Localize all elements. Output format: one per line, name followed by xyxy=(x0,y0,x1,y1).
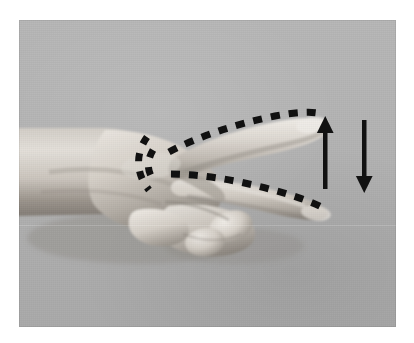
photograph-plate xyxy=(19,20,396,327)
up-arrow xyxy=(317,116,334,189)
index-finger-axis-dashed-line xyxy=(169,112,322,152)
up-arrow-shaft xyxy=(323,127,328,189)
down-arrow-shaft xyxy=(362,120,367,182)
annotation-illustration xyxy=(19,20,396,327)
knuckle-angle-arc-inner-dashed xyxy=(148,150,155,182)
down-arrow-head-icon xyxy=(356,176,373,193)
down-arrow xyxy=(356,120,373,193)
annotation-overlay xyxy=(19,20,396,327)
knuckle-angle-arc-dashed xyxy=(139,137,149,190)
up-arrow-head-icon xyxy=(317,116,334,133)
middle-finger-axis-dashed-line xyxy=(171,174,325,209)
figure-root: human left hand extended from the left e… xyxy=(0,0,414,343)
